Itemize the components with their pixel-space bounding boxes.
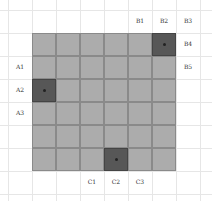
board-cell	[56, 148, 80, 171]
board-cell	[80, 102, 104, 125]
label-b5: B5	[176, 63, 200, 71]
game-board	[32, 33, 176, 171]
gridline	[0, 171, 212, 172]
label-b3: B3	[176, 17, 200, 25]
board-cell	[32, 102, 56, 125]
board-cell	[152, 56, 176, 79]
board-cell	[80, 125, 104, 148]
board-cell	[152, 79, 176, 102]
board-cell	[56, 125, 80, 148]
board-cell	[128, 102, 152, 125]
board-cell	[32, 125, 56, 148]
board-cell	[104, 56, 128, 79]
board-cell	[80, 148, 104, 171]
label-b4: B4	[176, 40, 200, 48]
board-cell	[128, 33, 152, 56]
board-cell	[128, 56, 152, 79]
board-cell	[128, 125, 152, 148]
board-cell	[80, 56, 104, 79]
board-cell	[32, 148, 56, 171]
gridline	[0, 194, 212, 195]
board-cell	[80, 79, 104, 102]
board-cell	[104, 79, 128, 102]
board-cell	[128, 148, 152, 171]
label-c1: C1	[80, 178, 104, 186]
board-cell	[152, 102, 176, 125]
board-cell	[152, 125, 176, 148]
dark-cell	[104, 148, 128, 171]
label-b2: B2	[152, 17, 176, 25]
label-a2: A2	[8, 86, 32, 94]
board-cell	[56, 79, 80, 102]
dark-cell	[152, 33, 176, 56]
label-c3: C3	[128, 178, 152, 186]
label-a3: A3	[8, 109, 32, 117]
board-cell	[32, 56, 56, 79]
board-cell	[104, 125, 128, 148]
board-cell	[104, 33, 128, 56]
gridline	[0, 10, 212, 11]
label-a1: A1	[8, 63, 32, 71]
board-cell	[152, 148, 176, 171]
label-b1: B1	[128, 17, 152, 25]
board-cell	[104, 102, 128, 125]
board-cell	[32, 33, 56, 56]
board-cell	[56, 56, 80, 79]
board-cell	[56, 102, 80, 125]
board-cell	[56, 33, 80, 56]
board-cell	[128, 79, 152, 102]
dark-cell	[32, 79, 56, 102]
label-c2: C2	[104, 178, 128, 186]
board-cell	[80, 33, 104, 56]
